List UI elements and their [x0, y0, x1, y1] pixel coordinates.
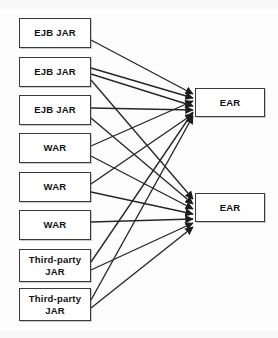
- target-node-ear2[interactable]: EAR: [195, 193, 265, 222]
- node-label: WAR: [42, 181, 69, 193]
- source-node-war3[interactable]: WAR: [19, 210, 91, 240]
- source-node-ejb3[interactable]: EJB JAR: [19, 95, 91, 125]
- edge-ejb1-to-ear1: [91, 40, 193, 94]
- edge-war2-to-ear2: [91, 192, 193, 214]
- edge-ejb2-to-ear1: [91, 68, 193, 98]
- dependency-edges: [91, 40, 193, 308]
- target-node-ear1[interactable]: EAR: [195, 88, 265, 117]
- node-label: Third-party JAR: [20, 293, 90, 316]
- diagram-canvas: EJB JAREJB JAREJB JARWARWARWARThird-part…: [0, 0, 278, 338]
- edge-tp2-to-ear1: [91, 116, 193, 300]
- node-label: EAR: [218, 97, 243, 109]
- node-label: EJB JAR: [32, 104, 78, 116]
- node-label: WAR: [42, 142, 69, 154]
- edge-ejb3-to-ear2: [91, 118, 193, 204]
- node-label: EJB JAR: [32, 66, 78, 78]
- source-node-tp1[interactable]: Third-party JAR: [19, 249, 91, 282]
- edge-ejb2-to-ear1: [91, 74, 193, 106]
- edge-war2-to-ear1: [91, 114, 193, 184]
- source-node-war1[interactable]: WAR: [19, 133, 91, 163]
- edge-war3-to-ear2: [91, 219, 193, 222]
- source-node-war2[interactable]: WAR: [19, 172, 91, 202]
- node-label: WAR: [42, 219, 69, 231]
- node-label: EJB JAR: [32, 27, 78, 39]
- source-node-ejb1[interactable]: EJB JAR: [19, 18, 91, 48]
- source-node-tp2[interactable]: Third-party JAR: [19, 288, 91, 321]
- node-label: Third-party JAR: [20, 254, 90, 277]
- edge-war1-to-ear2: [91, 156, 193, 209]
- node-label: EAR: [218, 202, 243, 214]
- edge-tp1-to-ear2: [91, 223, 193, 270]
- source-node-ejb2[interactable]: EJB JAR: [19, 57, 91, 87]
